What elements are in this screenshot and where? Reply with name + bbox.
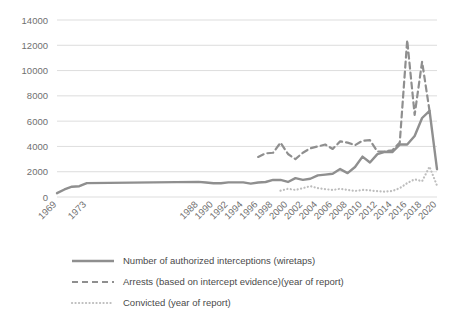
y-tick-label: 14000 — [22, 15, 48, 26]
x-tick-label: 1973 — [65, 199, 88, 222]
x-tick-label: 1969 — [36, 199, 59, 222]
gridlines-group — [57, 20, 437, 197]
y-tick-label: 4000 — [27, 141, 48, 152]
y-tick-label: 8000 — [27, 90, 48, 101]
y-axis-tick-labels: 02000400060008000100001200014000 — [22, 15, 48, 203]
y-tick-label: 6000 — [27, 116, 48, 127]
chart-legend: Number of authorized interceptions (wire… — [72, 255, 344, 308]
line-chart: 02000400060008000100001200014000 1969197… — [0, 0, 451, 327]
series-line — [258, 40, 429, 159]
series-group — [57, 40, 437, 193]
chart-canvas: 02000400060008000100001200014000 1969197… — [0, 0, 451, 327]
x-axis-tick-labels: 1969197319881990199219941996199820002002… — [36, 199, 439, 222]
y-tick-label: 12000 — [22, 40, 48, 51]
legend-label: Arrests (based on intercept evidence)(ye… — [123, 276, 344, 287]
y-tick-label: 10000 — [22, 65, 48, 76]
legend-label: Number of authorized interceptions (wire… — [123, 255, 315, 266]
y-tick-label: 2000 — [27, 166, 48, 177]
legend-label: Convicted (year of report) — [123, 297, 231, 308]
